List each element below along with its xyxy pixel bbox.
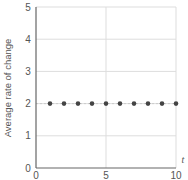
- x-tick-label: 5: [103, 170, 109, 180]
- chart: 012345 0510 Average rate of change t: [0, 0, 188, 180]
- data-point: [90, 101, 95, 106]
- y-tick-label: 3: [25, 66, 31, 77]
- y-tick-label: 4: [25, 34, 31, 45]
- data-point: [76, 101, 81, 106]
- y-tick-label: 5: [25, 2, 31, 13]
- x-tick-label: 0: [33, 170, 39, 180]
- data-point: [118, 101, 123, 106]
- data-point: [132, 101, 137, 106]
- data-point: [146, 101, 151, 106]
- data-point: [160, 101, 165, 106]
- x-tick-labels: 0510: [33, 170, 182, 180]
- y-axis-title: Average rate of change: [2, 39, 13, 138]
- data-point: [104, 101, 109, 106]
- x-tick-label: 10: [170, 170, 182, 180]
- data-point: [174, 101, 179, 106]
- y-tick-label: 2: [25, 98, 31, 109]
- y-tick-label: 0: [25, 163, 31, 174]
- grid-lines: [36, 7, 176, 168]
- y-tick-labels: 012345: [25, 2, 31, 174]
- data-point: [62, 101, 67, 106]
- x-axis-title: t: [182, 154, 185, 165]
- y-tick-label: 1: [25, 130, 31, 141]
- data-point: [48, 101, 53, 106]
